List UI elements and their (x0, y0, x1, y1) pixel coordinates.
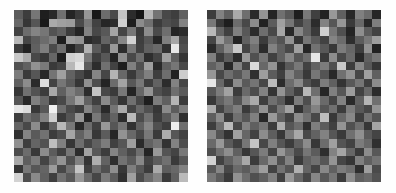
heatmap-cell (118, 139, 127, 148)
heatmap-cell (216, 148, 225, 157)
heatmap-cell (84, 19, 93, 28)
heatmap-cell (250, 62, 259, 71)
heatmap-cell (57, 36, 66, 45)
heatmap-cell (329, 79, 338, 88)
heatmap-cell (49, 173, 58, 182)
heatmap-cell (250, 44, 259, 53)
heatmap-cell (320, 27, 329, 36)
heatmap-cell (372, 122, 381, 131)
heatmap-cell (285, 87, 294, 96)
heatmap-cell (250, 173, 259, 182)
heatmap-cell (250, 113, 259, 122)
heatmap-cell (294, 87, 303, 96)
heatmap-cell (144, 165, 153, 174)
heatmap-cell (57, 122, 66, 131)
heatmap-cell (136, 27, 145, 36)
heatmap-cell (320, 10, 329, 19)
heatmap-cell (337, 139, 346, 148)
heatmap-cell (242, 139, 251, 148)
heatmap-cell (364, 79, 373, 88)
heatmap-cell (49, 148, 58, 157)
heatmap-cell (118, 87, 127, 96)
heatmap-cell (23, 156, 32, 165)
heatmap-cell (136, 10, 145, 19)
heatmap-cell (66, 62, 75, 71)
heatmap-cell (23, 130, 32, 139)
heatmap-cell (92, 44, 101, 53)
heatmap-cell (66, 96, 75, 105)
heatmap-cell (259, 156, 268, 165)
heatmap-cell (242, 44, 251, 53)
heatmap-cell (329, 10, 338, 19)
heatmap-cell (40, 156, 49, 165)
heatmap-cell (329, 148, 338, 157)
heatmap-cell (92, 27, 101, 36)
heatmap-cell (277, 173, 286, 182)
heatmap-cell (268, 165, 277, 174)
heatmap-cell (136, 36, 145, 45)
heatmap-cell (136, 156, 145, 165)
heatmap-cell (14, 113, 23, 122)
heatmap-cell (216, 36, 225, 45)
heatmap-cell (57, 156, 66, 165)
heatmap-cell (216, 96, 225, 105)
heatmap-cell (92, 79, 101, 88)
heatmap-cell (320, 122, 329, 131)
heatmap-cell (153, 27, 162, 36)
heatmap-cell (127, 96, 136, 105)
heatmap-cell (31, 87, 40, 96)
heatmap-cell (207, 62, 216, 71)
heatmap-cell (66, 36, 75, 45)
heatmap-cell (75, 36, 84, 45)
heatmap-cell (346, 105, 355, 114)
heatmap-cell (216, 10, 225, 19)
heatmap-cell (153, 87, 162, 96)
heatmap-cell (153, 19, 162, 28)
heatmap-cell (153, 139, 162, 148)
heatmap-cell (162, 87, 171, 96)
heatmap-cell (31, 44, 40, 53)
heatmap-cell (179, 79, 188, 88)
heatmap-cell (127, 122, 136, 131)
heatmap-cell (49, 113, 58, 122)
heatmap-cell (294, 44, 303, 53)
heatmap-cell (311, 156, 320, 165)
heatmap-cell (285, 10, 294, 19)
heatmap-cell (259, 36, 268, 45)
heatmap-cell (14, 27, 23, 36)
heatmap-cell (346, 44, 355, 53)
heatmap-cell (250, 122, 259, 131)
heatmap-cell (75, 148, 84, 157)
heatmap-cell (127, 113, 136, 122)
heatmap-cell (84, 96, 93, 105)
heatmap-cell (268, 44, 277, 53)
heatmap-cell (372, 165, 381, 174)
heatmap-cell (268, 148, 277, 157)
heatmap-cell (311, 62, 320, 71)
heatmap-cell (40, 44, 49, 53)
heatmap-cell (294, 36, 303, 45)
heatmap-cell (66, 148, 75, 157)
heatmap-cell (355, 130, 364, 139)
heatmap-cell (171, 148, 180, 157)
heatmap-cell (372, 87, 381, 96)
heatmap-cell (127, 173, 136, 182)
heatmap-cell (84, 27, 93, 36)
heatmap-cell (14, 96, 23, 105)
heatmap-cell (216, 139, 225, 148)
heatmap-cell (110, 36, 119, 45)
heatmap-cell (57, 148, 66, 157)
heatmap-cell (162, 79, 171, 88)
heatmap-cell (14, 44, 23, 53)
heatmap-cell (92, 62, 101, 71)
heatmap-cell (346, 113, 355, 122)
heatmap-cell (303, 173, 312, 182)
heatmap-cell (110, 62, 119, 71)
heatmap-cell (136, 19, 145, 28)
heatmap-cell (303, 113, 312, 122)
heatmap-cell (311, 105, 320, 114)
heatmap-cell (259, 96, 268, 105)
heatmap-cell (171, 44, 180, 53)
heatmap-cell (144, 130, 153, 139)
heatmap-cell (171, 53, 180, 62)
